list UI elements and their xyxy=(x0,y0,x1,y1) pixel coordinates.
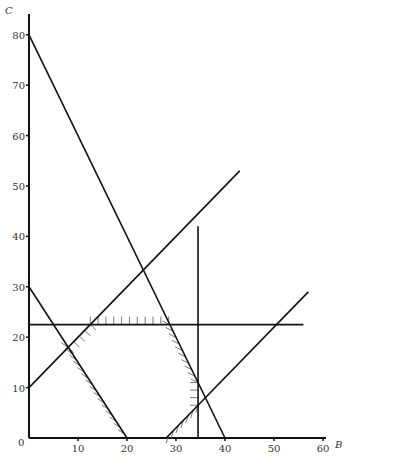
x-axis-label: B xyxy=(334,439,342,450)
constraint-lines xyxy=(29,35,308,438)
y-tick-label: 50 xyxy=(12,181,25,192)
y-axis-label: C xyxy=(5,5,13,16)
x-tick-label: 20 xyxy=(121,443,134,454)
constraint-line xyxy=(166,292,308,438)
chart: C B 0 1020304050607080 102030405060 xyxy=(0,0,407,473)
constraint-line xyxy=(29,171,240,388)
constraint-line xyxy=(29,35,225,438)
x-tick-label: 10 xyxy=(72,443,85,454)
y-tick-label: 30 xyxy=(12,282,25,293)
hatch-marks xyxy=(61,317,198,443)
origin-label: 0 xyxy=(18,437,24,448)
hatch-mark xyxy=(79,336,85,342)
y-tick-label: 80 xyxy=(12,30,25,41)
y-tick-label: 70 xyxy=(12,80,25,91)
y-tick-label: 20 xyxy=(12,332,25,343)
x-tick-label: 50 xyxy=(268,443,281,454)
x-ticks: 102030405060 xyxy=(72,438,330,454)
x-tick-label: 40 xyxy=(219,443,232,454)
y-tick-label: 40 xyxy=(12,231,25,242)
y-ticks: 1020304050607080 xyxy=(12,30,29,394)
y-tick-label: 60 xyxy=(12,131,25,142)
axes: C B 0 xyxy=(5,5,342,450)
hatch-mark xyxy=(90,325,96,331)
hatch-mark xyxy=(74,342,80,348)
hatch-mark xyxy=(85,330,91,336)
x-tick-label: 60 xyxy=(317,443,330,454)
y-tick-label: 10 xyxy=(12,383,25,394)
constraint-line xyxy=(29,287,127,438)
x-tick-label: 30 xyxy=(170,443,183,454)
